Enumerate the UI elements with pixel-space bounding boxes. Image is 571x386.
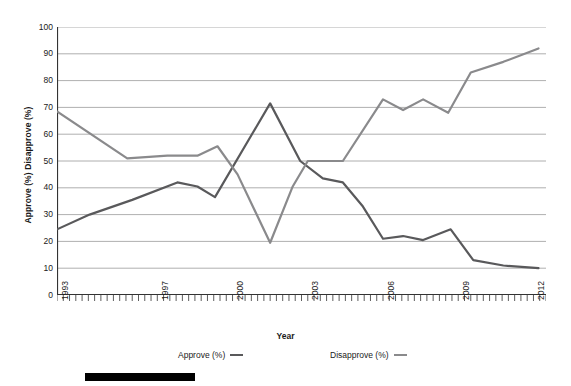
chart-figure: Approve (%) Disapprove (%) 1009080706050… (0, 0, 571, 386)
y-axis-tick-labels: 1009080706050403020100 (27, 27, 53, 295)
legend-item[interactable]: Disapprove (%) (330, 350, 407, 360)
series-line-1 (57, 103, 538, 268)
legend-item[interactable]: Approve (%) (178, 350, 243, 360)
y-tick-label: 50 (27, 157, 53, 166)
y-tick-label: 100 (27, 23, 53, 32)
x-tick-label: 2000 (236, 281, 245, 300)
series-line-2 (57, 48, 538, 242)
chart-legend: Approve (%)Disapprove (%) (0, 350, 571, 366)
y-tick-label: 80 (27, 76, 53, 85)
grid-lines (57, 27, 546, 268)
y-tick-label: 60 (27, 130, 53, 139)
plot-area (57, 27, 546, 295)
legend-label: Approve (%) (178, 350, 225, 360)
y-tick-label: 10 (27, 264, 53, 273)
x-axis-tick-labels: 1993199720002003200620092012 (57, 300, 546, 334)
x-tick-label: 2003 (311, 281, 320, 300)
x-tick-label: 2009 (462, 281, 471, 300)
legend-color-swatch (230, 354, 243, 356)
y-tick-label: 90 (27, 49, 53, 58)
x-tick-label: 1993 (61, 281, 70, 300)
y-tick-label: 40 (27, 183, 53, 192)
y-tick-label: 30 (27, 210, 53, 219)
y-tick-label: 70 (27, 103, 53, 112)
chart-canvas (57, 27, 546, 303)
legend-label: Disapprove (%) (330, 350, 389, 360)
x-tick-label: 1997 (161, 281, 170, 300)
bottom-black-bar (85, 373, 195, 381)
x-tick-label: 2006 (387, 281, 396, 300)
y-tick-label: 0 (27, 291, 53, 300)
y-tick-label: 20 (27, 237, 53, 246)
x-tick-label: 2012 (537, 281, 546, 300)
legend-color-swatch (394, 354, 407, 356)
x-axis-title: Year (0, 331, 571, 341)
